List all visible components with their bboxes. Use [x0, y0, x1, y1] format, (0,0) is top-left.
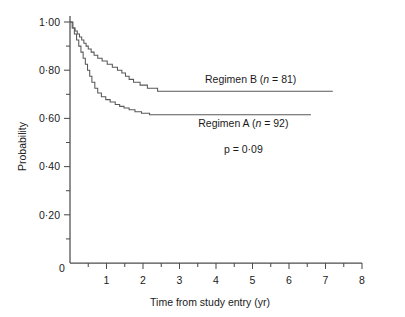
y-tick-label: 0·20: [39, 209, 60, 221]
y-tick-label: 0·60: [39, 112, 60, 124]
survival-curve-regimen-a: [70, 22, 311, 115]
y-tick-label: 0·40: [39, 160, 60, 172]
survival-chart: 0·200·400·600·801·00012345678Time from s…: [0, 0, 405, 317]
x-tick-label: 7: [323, 274, 329, 286]
x-tick-label: 5: [250, 274, 256, 286]
x-tick-label: 4: [213, 274, 219, 286]
y-tick-label: 1·00: [39, 16, 60, 28]
x-tick-label: 0: [59, 262, 65, 274]
kaplan-meier-figure: 0·200·400·600·801·00012345678Time from s…: [0, 0, 405, 317]
x-tick-label: 6: [286, 274, 292, 286]
x-axis-label: Time from study entry (yr): [150, 296, 270, 308]
x-tick-label: 2: [140, 274, 146, 286]
y-tick-label: 0·80: [39, 64, 60, 76]
regimen-a-label: Regimen A (n = 92): [198, 117, 288, 129]
x-tick-label: 1: [104, 274, 110, 286]
x-tick-label: 8: [359, 274, 365, 286]
x-tick-label: 3: [177, 274, 183, 286]
regimen-b-label: Regimen B (n = 81): [205, 73, 296, 85]
y-axis-label: Probability: [16, 121, 28, 171]
p-value-label: p = 0·09: [224, 143, 263, 155]
